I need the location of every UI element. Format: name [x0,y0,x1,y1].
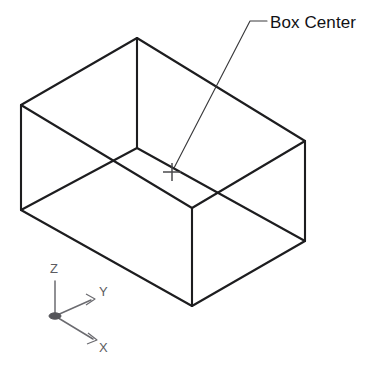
y-axis-label: Y [99,284,108,299]
x-axis-label: X [99,340,108,355]
isometric-box-diagram: Box Center Z Y X [0,0,388,378]
box-center-label: Box Center [270,13,356,32]
z-axis-label: Z [50,261,58,276]
ucs-origin-marker [49,313,61,319]
figure-canvas: Box Center Z Y X [0,0,388,378]
